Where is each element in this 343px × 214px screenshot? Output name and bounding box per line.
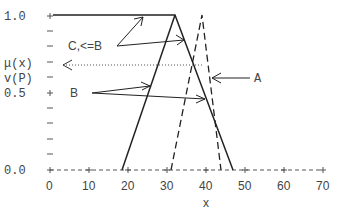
x-tick-30: 30 bbox=[160, 179, 174, 193]
annotation-a: A bbox=[254, 72, 262, 86]
y-tick-0-0: 0.0 bbox=[4, 164, 26, 178]
x-tick-60: 60 bbox=[277, 179, 291, 193]
y-tick-0-5: 0.5 bbox=[4, 87, 26, 101]
dashed-membership-curve-a bbox=[171, 15, 221, 170]
x-tick-40: 40 bbox=[199, 179, 213, 193]
x-tick-70: 70 bbox=[316, 179, 330, 193]
annotation-a-arrow bbox=[212, 73, 250, 83]
annotation-b: B bbox=[70, 86, 78, 100]
x-axis-label: x bbox=[203, 196, 209, 210]
y-tick-1-0: 1.0 bbox=[4, 10, 26, 24]
fuzzy-membership-chart: 1.0 0.5 0.0 μ(x) v(P) 0 10 20 30 40 50 6… bbox=[0, 0, 343, 214]
x-tick-50: 50 bbox=[238, 179, 252, 193]
x-tick-0: 0 bbox=[46, 179, 53, 193]
x-axis bbox=[47, 167, 326, 173]
dotted-pointer bbox=[63, 60, 202, 70]
x-tick-10: 10 bbox=[82, 179, 96, 193]
y-axis-label-mu: μ(x) bbox=[4, 57, 33, 71]
y-axis-label-v: v(P) bbox=[4, 72, 33, 86]
annotation-c-arrows bbox=[117, 17, 184, 46]
x-tick-20: 20 bbox=[121, 179, 135, 193]
annotation-c: C,<=B bbox=[68, 39, 102, 53]
chart-canvas: 1.0 0.5 0.0 μ(x) v(P) 0 10 20 30 40 50 6… bbox=[0, 0, 343, 214]
y-axis-ticks bbox=[47, 13, 53, 154]
